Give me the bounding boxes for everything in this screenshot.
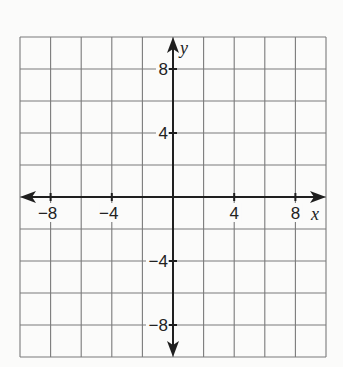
y-tick-label: −8 [149,316,168,335]
axes [20,37,326,357]
x-tick-label: −8 [38,204,57,223]
x-tick-label: 8 [291,204,300,223]
coordinate-plane: −8−44884−4−8 x y [0,0,343,367]
x-tick-label: −4 [99,204,118,223]
y-axis-title: y [178,38,188,58]
x-axis-title: x [310,204,319,224]
y-tick-label: 8 [159,60,168,79]
y-tick-label: 4 [159,124,168,143]
y-tick-label: −4 [149,252,168,271]
x-tick-label: 4 [229,204,238,223]
